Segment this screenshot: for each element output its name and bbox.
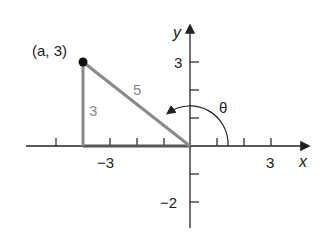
x-axis-label: x — [298, 153, 308, 170]
hypotenuse-label: 5 — [133, 81, 141, 98]
x-tick-label-neg3: −3 — [97, 154, 114, 171]
opposite-side-label: 3 — [89, 102, 97, 119]
coordinate-diagram: (a, 3) 3 5 θ y x −3 3 3 −2 — [0, 0, 335, 241]
x-tick-label-3: 3 — [266, 154, 274, 171]
angle-label: θ — [219, 99, 227, 116]
reference-triangle — [83, 62, 190, 146]
point-marker — [79, 58, 88, 67]
y-axis — [190, 26, 199, 228]
y-tick-label-neg2: −2 — [160, 194, 177, 211]
point-label: (a, 3) — [32, 42, 67, 59]
y-tick-label-3: 3 — [174, 54, 182, 71]
y-axis-label: y — [172, 24, 182, 41]
